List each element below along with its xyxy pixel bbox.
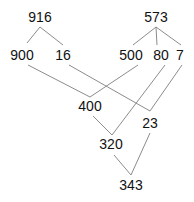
edge-line: [133, 27, 156, 45]
edge-line: [40, 27, 63, 45]
node-label-573: 573: [144, 9, 168, 25]
node-label-320: 320: [99, 136, 123, 152]
node-label-16: 16: [55, 47, 71, 63]
edge-line: [114, 155, 131, 175]
edge-line: [156, 27, 181, 45]
edge-line: [156, 27, 157, 45]
node-label-80: 80: [153, 47, 169, 63]
edge-line: [93, 116, 112, 135]
edge-line: [28, 65, 90, 97]
node-label-900: 900: [10, 47, 34, 63]
node-label-916: 916: [28, 9, 52, 25]
node-label-343: 343: [119, 177, 143, 193]
merge-tree-diagram: 9169001657350080740023320343: [0, 0, 194, 202]
edge-line: [27, 27, 40, 43]
node-label-500: 500: [119, 47, 143, 63]
node-label-7: 7: [176, 47, 184, 63]
node-group: 9169001657350080740023320343: [10, 9, 184, 193]
edge-line: [131, 133, 150, 175]
node-label-23: 23: [142, 115, 158, 131]
node-label-400: 400: [78, 98, 102, 114]
edge-line: [150, 65, 182, 111]
